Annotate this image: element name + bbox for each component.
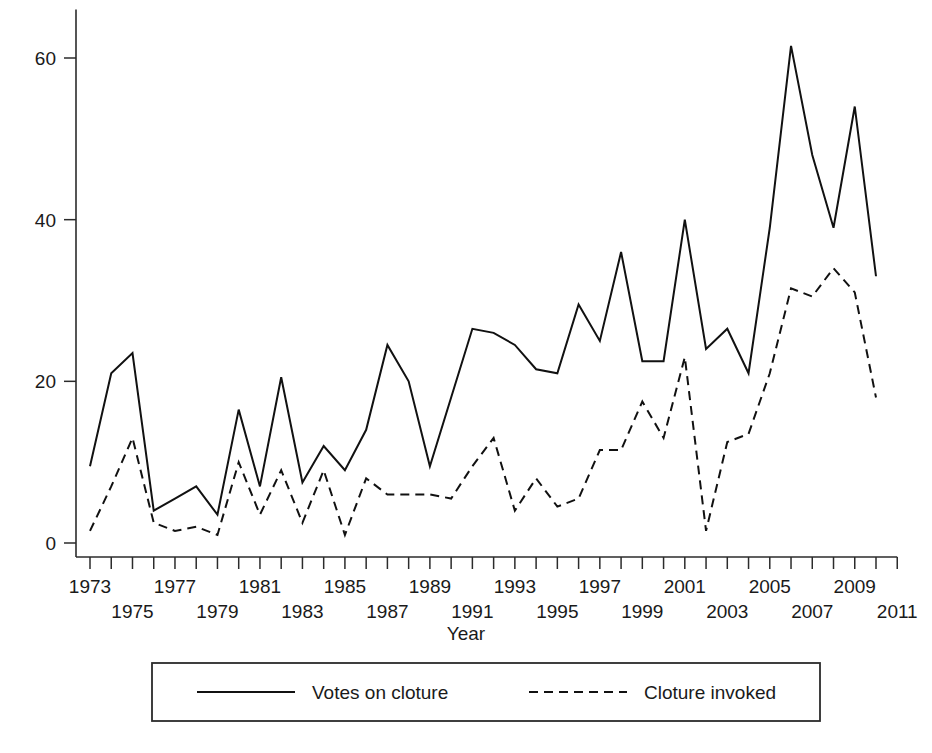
x-axis-title: Year: [447, 623, 486, 644]
line-chart: 0204060 19731977198119851989199319972001…: [0, 0, 932, 753]
series-votes-on-cloture-line: [90, 46, 876, 515]
x-axis: 1973197719811985198919931997200120052009…: [69, 557, 918, 622]
chart-figure: 0204060 19731977198119851989199319972001…: [0, 0, 932, 753]
legend-label-votes-on-cloture: Votes on cloture: [312, 682, 448, 703]
y-tick-label: 20: [35, 371, 56, 392]
x-tick-label: 1979: [196, 601, 238, 622]
x-tick-label: 1973: [69, 576, 111, 597]
x-tick-label: 1997: [579, 576, 621, 597]
x-tick-label: 1977: [154, 576, 196, 597]
x-tick-label: 1989: [409, 576, 451, 597]
x-tick-label: 1983: [281, 601, 323, 622]
x-tick-label: 2007: [791, 601, 833, 622]
x-tick-label: 2009: [834, 576, 876, 597]
series-group: [90, 46, 876, 535]
legend-label-cloture-invoked: Cloture invoked: [644, 682, 776, 703]
x-tick-label: 1993: [494, 576, 536, 597]
x-tick-label: 1985: [324, 576, 366, 597]
x-tick-label: 1991: [451, 601, 493, 622]
x-tick-label: 1995: [536, 601, 578, 622]
x-tick-label: 2011: [877, 601, 918, 622]
x-tick-label: 2005: [749, 576, 791, 597]
x-tick-label: 1975: [111, 601, 153, 622]
x-tick-label: 2003: [706, 601, 748, 622]
y-tick-label: 0: [45, 533, 56, 554]
x-tick-label: 1981: [239, 576, 281, 597]
x-tick-label: 2001: [664, 576, 706, 597]
y-tick-label: 40: [35, 210, 56, 231]
x-tick-label: 1999: [621, 601, 663, 622]
chart-legend: Votes on cloture Cloture invoked: [152, 663, 820, 721]
y-axis-ticks: 0204060: [35, 48, 76, 554]
x-axis-ticks: [90, 557, 897, 569]
x-tick-label: 1987: [366, 601, 408, 622]
y-tick-label: 60: [35, 48, 56, 69]
x-axis-tick-labels: 1973197719811985198919931997200120052009…: [69, 576, 918, 622]
y-axis: 0204060: [35, 10, 76, 558]
